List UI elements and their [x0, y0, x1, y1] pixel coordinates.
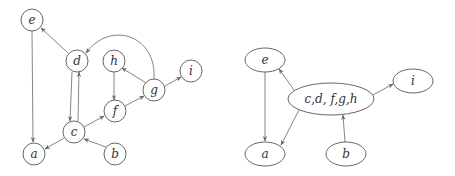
edge-c-f [84, 116, 104, 127]
edge-b-cdfgh [343, 115, 345, 142]
svg-text:c,d, f,g,h: c,d, f,g,h [305, 92, 358, 106]
node-e: e [21, 9, 43, 31]
node-i-condensed: i [393, 69, 433, 93]
svg-text:b: b [111, 147, 119, 161]
edge-b-c [84, 139, 106, 147]
node-g: g [143, 79, 165, 101]
edge-cdfgh-e [279, 69, 294, 90]
svg-text:i: i [411, 74, 415, 88]
edge-cdfgh-a [281, 110, 299, 145]
left-graph-nodes: e d h i g f c a [21, 9, 202, 165]
svg-text:e: e [28, 13, 35, 27]
node-e-condensed: e [245, 48, 285, 72]
edge-c-d [78, 72, 79, 121]
svg-text:i: i [189, 64, 193, 78]
node-a: a [23, 143, 45, 165]
node-h: h [103, 50, 125, 72]
node-a-condensed: a [245, 142, 285, 166]
node-c: c [63, 121, 85, 143]
node-cdfgh-condensed: c,d, f,g,h [288, 83, 374, 115]
svg-text:h: h [110, 54, 118, 68]
edge-d-e [41, 28, 68, 53]
edge-f-g [125, 96, 144, 106]
svg-text:g: g [150, 83, 158, 97]
svg-text:a: a [261, 147, 268, 161]
svg-text:b: b [342, 147, 350, 161]
edge-e-a [32, 31, 33, 142]
svg-text:e: e [261, 53, 268, 67]
svg-text:c: c [71, 125, 78, 139]
node-d: d [66, 50, 88, 72]
edge-c-a [45, 138, 64, 149]
edge-cdfgh-i [373, 84, 393, 95]
right-graph-nodes: e c,d, f,g,h i a b [245, 48, 433, 166]
svg-text:d: d [73, 54, 81, 68]
scc-condensation-diagram: e d h i g f c a [0, 0, 455, 176]
node-i: i [180, 60, 202, 82]
edge-d-c [70, 72, 72, 121]
node-b: b [104, 143, 126, 165]
svg-text:a: a [30, 147, 37, 161]
edge-g-h [122, 68, 146, 83]
node-b-condensed: b [326, 142, 366, 166]
edge-g-i [165, 77, 181, 86]
node-f: f [104, 100, 126, 122]
